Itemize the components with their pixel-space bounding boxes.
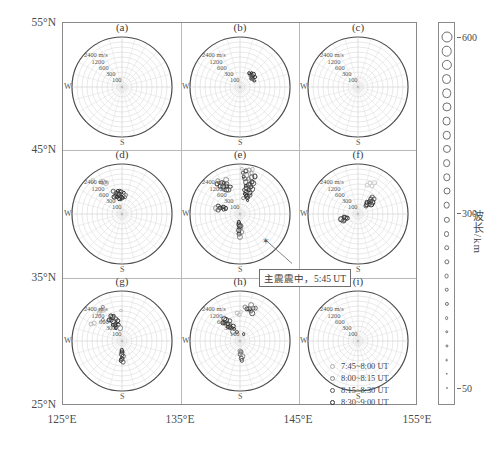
- data-point: [238, 348, 243, 353]
- size-legend-circle: [443, 159, 451, 167]
- direction-label-west: W: [182, 336, 190, 345]
- data-point: [120, 360, 125, 365]
- size-legend-circle: [444, 302, 448, 306]
- x-tick-135e: 135°E: [158, 413, 202, 425]
- legend-label: 8:15~8:30 UT: [341, 386, 389, 395]
- epicenter-star-icon: ✶: [262, 236, 270, 246]
- direction-label-south: S: [356, 138, 360, 147]
- data-point: [250, 167, 255, 172]
- direction-label-south: S: [238, 138, 242, 147]
- direction-label-west: W: [300, 82, 308, 91]
- legend-label: 8:30~9:00 UT: [341, 398, 389, 407]
- legend-item[interactable]: 8:00~8:15 UT: [327, 372, 389, 384]
- panel-tag: (h): [234, 275, 247, 287]
- polar-grid: [188, 289, 292, 393]
- radial-tick-label: 100: [348, 76, 358, 83]
- size-legend-circle: [444, 245, 450, 251]
- size-legend-circle: [445, 316, 449, 320]
- data-point: [111, 189, 116, 194]
- polar-grid: [70, 162, 174, 266]
- colorbar-tick: [457, 213, 461, 214]
- direction-label-west: W: [182, 82, 190, 91]
- polar-panel-a: (a)2400 m/s1200600300100WS: [63, 23, 181, 150]
- polar-panel-d: (d)2400 m/s1200600300100WS: [63, 150, 181, 277]
- radial-tick-label: 100: [230, 203, 240, 210]
- panel-tag: (g): [116, 275, 129, 287]
- legend-circle-icon: [327, 388, 338, 393]
- polar-panel-f: (f)2400 m/s1200600300100WS: [299, 150, 417, 277]
- size-legend-circle: [444, 273, 449, 278]
- x-tick-155e: 155°E: [395, 413, 439, 425]
- epicenter-annotation: 主震震中，5:45 UT: [259, 269, 351, 287]
- size-legend-circle: [442, 117, 451, 126]
- panel-tag: (c): [352, 21, 364, 33]
- direction-label-south: S: [120, 265, 124, 274]
- polar-panel-g: (g)2400 m/s1200600300100WS: [63, 277, 181, 404]
- direction-label-south: S: [356, 265, 360, 274]
- radial-tick-label: 100: [112, 330, 122, 337]
- size-legend-circle: [443, 174, 450, 181]
- size-legend-circle: [443, 202, 450, 209]
- y-tick-55n: 55°N: [8, 16, 56, 28]
- legend-item[interactable]: 8:15~8:30 UT: [327, 384, 389, 396]
- x-tick-145e: 145°E: [276, 413, 320, 425]
- legend-label: 7:45~8:00 UT: [341, 362, 389, 371]
- size-legend-circle: [441, 60, 451, 70]
- y-tick-25n: 25°N: [8, 398, 56, 410]
- data-point: [241, 196, 245, 200]
- radial-tick-label: 100: [112, 76, 122, 83]
- size-legend-circle: [442, 131, 450, 139]
- legend-circle-icon: [327, 376, 338, 381]
- size-legend-circle: [445, 344, 448, 347]
- size-legend-circle: [445, 359, 448, 362]
- radial-tick-label: 100: [230, 330, 240, 337]
- polar-grid: [188, 162, 292, 266]
- size-legend-circle: [445, 373, 447, 375]
- radial-tick-label: 100: [348, 203, 358, 210]
- legend-circle-icon: [327, 400, 338, 405]
- colorbar-title: 波长/km: [470, 210, 486, 254]
- direction-label-west: W: [64, 209, 72, 218]
- panel-tag: (i): [353, 275, 363, 287]
- polar-grid: [70, 289, 174, 393]
- data-point: [249, 310, 255, 316]
- polar-panel-h: (h)2400 m/s1200600300100WS: [181, 277, 299, 404]
- data-point: [89, 322, 94, 327]
- wavelength-size-legend: 60030050: [438, 22, 455, 405]
- radial-tick-label: 100: [230, 76, 240, 83]
- time-legend: 7:45~8:00 UT 8:00~8:15 UT 8:15~8:30 UT 8…: [327, 360, 389, 408]
- size-legend-circle: [441, 32, 452, 43]
- size-legend-circle: [443, 216, 449, 222]
- colorbar-tick: [457, 388, 461, 389]
- direction-label-south: S: [120, 138, 124, 147]
- direction-label-west: W: [300, 336, 308, 345]
- y-tick-35n: 35°N: [8, 271, 56, 283]
- size-legend-circle: [443, 188, 450, 195]
- size-legend-circle: [444, 287, 449, 292]
- data-point: [216, 207, 221, 212]
- data-point: [119, 309, 123, 313]
- panel-tag: (b): [234, 21, 247, 33]
- size-legend-circle: [442, 103, 451, 112]
- polar-panel-c: (c)2400 m/s1200600300100WS: [299, 23, 417, 150]
- polar-grid: [70, 35, 174, 139]
- panel-tag: (e): [234, 148, 246, 160]
- size-legend-circle: [444, 259, 449, 264]
- data-point: [365, 183, 370, 188]
- radial-tick-label: 100: [348, 330, 358, 337]
- size-legend-circle: [442, 145, 450, 153]
- direction-label-west: W: [182, 209, 190, 218]
- legend-circle-icon: [327, 364, 338, 369]
- data-point: [370, 194, 375, 199]
- direction-label-south: S: [238, 265, 242, 274]
- colorbar-tick: [457, 37, 461, 38]
- polar-grid: [188, 35, 292, 139]
- data-point: [242, 304, 247, 309]
- data-point: [342, 215, 347, 220]
- data-point: [368, 202, 374, 208]
- polar-panel-e: (e)2400 m/s1200600300100WS✶: [181, 150, 299, 277]
- legend-item[interactable]: 8:30~9:00 UT: [327, 396, 389, 408]
- legend-item[interactable]: 7:45~8:00 UT: [327, 360, 389, 372]
- figure-root: 55°N 45°N 35°N 25°N 125°E 135°E 145°E 15…: [0, 0, 498, 452]
- direction-label-west: W: [64, 82, 72, 91]
